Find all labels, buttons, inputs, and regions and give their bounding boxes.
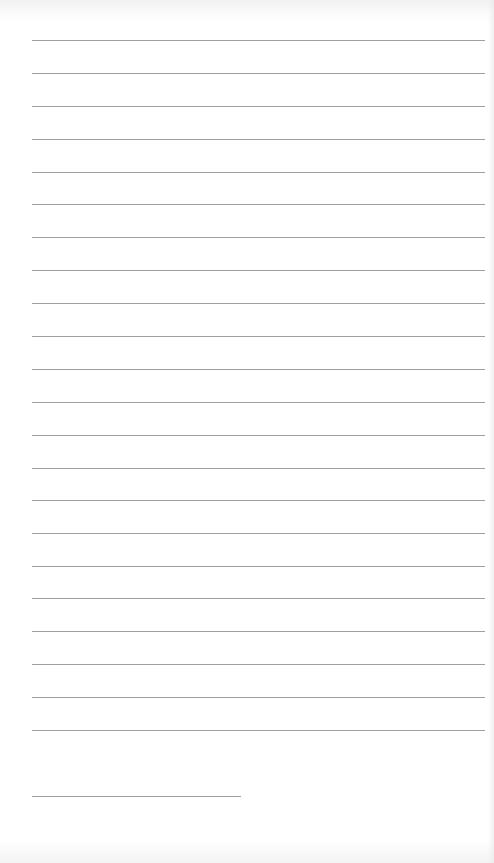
- ruled-line: [32, 566, 485, 567]
- ruled-line: [32, 435, 485, 436]
- ruled-line: [32, 402, 485, 403]
- ruled-line: [32, 533, 485, 534]
- ruled-line: [32, 270, 485, 271]
- page-edge-shadow: [488, 0, 494, 863]
- ruled-line: [32, 468, 485, 469]
- ruled-line: [32, 336, 485, 337]
- ruled-line: [32, 369, 485, 370]
- ruled-line: [32, 204, 485, 205]
- ruled-line: [32, 730, 485, 731]
- ruled-line: [32, 631, 485, 632]
- ruled-line: [32, 139, 485, 140]
- short-signature-line: [32, 796, 241, 797]
- ruled-line: [32, 106, 485, 107]
- ruled-line: [32, 697, 485, 698]
- ruled-line: [32, 500, 485, 501]
- ruled-line: [32, 237, 485, 238]
- ruled-line: [32, 40, 485, 41]
- ruled-line: [32, 598, 485, 599]
- ruled-line: [32, 303, 485, 304]
- lined-paper-page: [0, 0, 494, 863]
- ruled-line: [32, 172, 485, 173]
- ruled-line: [32, 664, 485, 665]
- ruled-line: [32, 73, 485, 74]
